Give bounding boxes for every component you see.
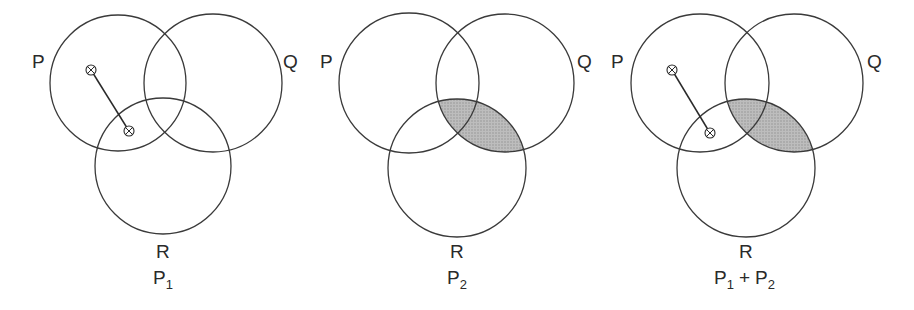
label-r: R	[739, 241, 753, 262]
panel-p1-plus-p2: P Q R P1+P2	[611, 14, 882, 292]
set-r-circle	[95, 98, 231, 234]
label-q: Q	[283, 51, 298, 72]
cross-marker-icon	[86, 65, 96, 75]
venn-diagrams: P Q R P1 P Q R P2 P Q R P1+P2	[0, 0, 914, 310]
panel-p2: P Q R P2	[320, 13, 592, 292]
link-line	[672, 70, 710, 133]
cross-marker-icon	[124, 126, 134, 136]
label-p: P	[32, 51, 45, 72]
shaded-q-r-intersection	[677, 99, 815, 237]
set-q-circle	[144, 14, 282, 152]
cross-marker-icon	[705, 128, 715, 138]
label-r: R	[450, 241, 464, 262]
set-p-circle	[50, 15, 186, 151]
label-r: R	[156, 241, 170, 262]
caption-p2: P2	[447, 267, 467, 292]
label-p: P	[320, 51, 333, 72]
cross-marker-icon	[667, 65, 677, 75]
label-p: P	[611, 51, 624, 72]
label-q: Q	[867, 51, 882, 72]
shaded-q-r-intersection	[388, 99, 526, 237]
label-q: Q	[577, 51, 592, 72]
caption-p1: P1	[153, 267, 173, 292]
link-line	[91, 70, 129, 131]
panel-p1: P Q R P1	[32, 14, 298, 292]
caption-p1-plus-p2: P1+P2	[714, 267, 775, 292]
